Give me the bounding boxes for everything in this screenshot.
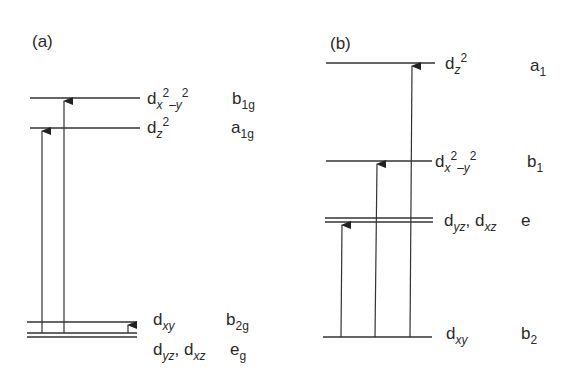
orbital-label-a-dxy: dxy xyxy=(153,310,175,333)
panel-b: (b) dz2 a1 dx2–y2 b1 dyz, dxz e dxy b2 xyxy=(323,34,546,347)
transition-arrow-b-b2-a1 xyxy=(410,66,412,337)
panel-a-label: (a) xyxy=(32,32,53,51)
symmetry-label-b-e: e xyxy=(521,211,530,230)
panel-a: (a) dx2–y2 b1g dz2 a1g dxy b2g dyz, dxz … xyxy=(27,32,255,363)
transition-arrow-b-b2-e xyxy=(341,225,342,337)
orbital-label-b-dxy: dxy xyxy=(446,324,468,347)
orbital-label-b-dz2: dz2 xyxy=(445,51,467,77)
symmetry-label-a-b1g: b1g xyxy=(232,89,255,112)
symmetry-label-a-a1g: a1g xyxy=(231,118,254,141)
symmetry-label-b-b1: b1 xyxy=(527,152,543,175)
orbital-label-b-dx2y2: dx2–y2 xyxy=(435,149,477,175)
orbital-label-a-dz2: dz2 xyxy=(147,115,169,141)
symmetry-label-b-b2: b2 xyxy=(521,324,537,347)
panel-b-label: (b) xyxy=(330,34,351,53)
energy-level-diagram: (a) dx2–y2 b1g dz2 a1g dxy b2g dyz, dxz … xyxy=(0,0,567,385)
transition-arrow-b-b2-b1 xyxy=(375,164,377,337)
orbital-label-a-dx2y2: dx2–y2 xyxy=(147,86,189,112)
symmetry-label-a-eg: eg xyxy=(230,340,246,363)
symmetry-label-a-b2g: b2g xyxy=(226,310,249,333)
orbital-label-b-dyz-dxz: dyz, dxz xyxy=(444,211,496,234)
symmetry-label-b-a1: a1 xyxy=(530,56,546,79)
orbital-label-a-dyz-dxz: dyz, dxz xyxy=(153,340,205,363)
